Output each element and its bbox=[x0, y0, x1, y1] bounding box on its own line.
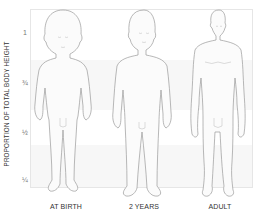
figures-illustration bbox=[0, 0, 258, 224]
adult-figure-icon bbox=[191, 10, 245, 196]
label-2-years: 2 YEARS bbox=[114, 203, 174, 210]
toddler-figure-icon bbox=[113, 10, 172, 196]
newborn-figure-icon bbox=[35, 10, 92, 191]
label-adult: ADULT bbox=[190, 203, 250, 210]
label-at-birth: AT BIRTH bbox=[36, 203, 96, 210]
